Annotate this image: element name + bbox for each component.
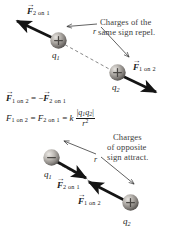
vector-arrow-icon: → <box>133 57 141 65</box>
repulsion-force-label-on-q1: →F2 on 1 <box>27 6 50 16</box>
coulomb-denominator: r2 <box>76 118 95 129</box>
coulomb-law-figure: Charges of the same sign repel. →F2 on 1… <box>0 0 180 242</box>
attraction-force-label-on-q1: →F2 on 1 <box>57 180 80 190</box>
repulsion-charge-q1-sphere <box>50 32 66 48</box>
vector-arrow-icon: → <box>43 88 51 96</box>
attraction-distance-label: r <box>94 155 97 164</box>
vector-arrow-icon: → <box>27 1 35 9</box>
vector-arrow-icon: → <box>6 88 14 96</box>
repulsion-force-label-on-q2: →F1 on 2 <box>133 62 156 72</box>
attraction-charge-q2-sphere <box>122 194 138 210</box>
equation-coulomb-law: F1 on 2 = F2 on 1 = k |q1q2| r2 <box>6 108 95 129</box>
attraction-charge-label-q1: q1 <box>44 169 52 179</box>
repulsion-charge-label-q2: q2 <box>112 82 120 92</box>
repulsion-charge-label-q1: q1 <box>52 50 60 60</box>
repulsion-distance-label: r <box>93 27 96 36</box>
coulomb-numerator: |q1q2| <box>76 108 95 118</box>
attraction-charge-label-q2: q2 <box>123 216 131 226</box>
vector-arrow-icon: → <box>57 175 65 183</box>
equation-newton-third-law: →F1 on 2 = −→F2 on 1 <box>6 93 66 103</box>
vector-arrow-icon: → <box>78 191 86 199</box>
repulsion-center-dashed-line <box>60 42 111 70</box>
attraction-force-label-on-q2: →F1 on 2 <box>78 196 101 206</box>
repulsion-caption-line-2: same sign repel. <box>98 28 155 38</box>
repulsion-charge-q2-sphere <box>109 64 125 80</box>
attraction-caption-line-3: sign attract. <box>107 153 148 163</box>
repulsion-force-vector-on-q1 <box>17 21 55 39</box>
coulomb-fraction: |q1q2| r2 <box>76 108 95 129</box>
attraction-charge-q1-sphere <box>43 149 59 165</box>
